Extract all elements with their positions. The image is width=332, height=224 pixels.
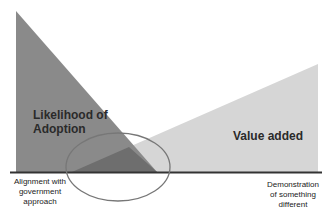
right-axis-label-line3: different xyxy=(261,200,325,210)
likelihood-label: Likelihood of Adoption xyxy=(33,108,108,136)
likelihood-label-line2: Adoption xyxy=(33,122,108,136)
left-axis-label-line3: approach xyxy=(8,197,72,207)
right-axis-label-line2: of something xyxy=(261,190,325,200)
left-axis-label-line1: Alignment with xyxy=(8,177,72,187)
likelihood-label-line1: Likelihood of xyxy=(33,108,108,122)
left-axis-label: Alignment with government approach xyxy=(8,177,72,207)
value-added-label: Value added xyxy=(233,129,303,143)
right-axis-label-line1: Demonstration xyxy=(261,180,325,190)
left-axis-label-line2: government xyxy=(8,187,72,197)
right-axis-label: Demonstration of something different xyxy=(261,180,325,210)
